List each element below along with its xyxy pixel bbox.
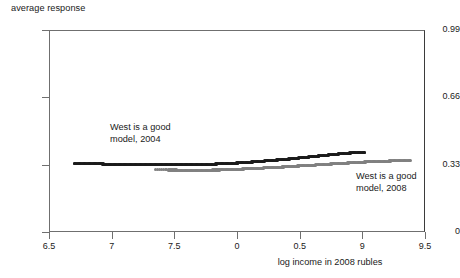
x-axis-tick-label: 6.5 xyxy=(29,241,69,251)
y-axis-tick-mark xyxy=(42,165,49,166)
x-axis-tick-mark xyxy=(174,232,175,239)
data-series-2008 xyxy=(49,30,425,232)
series-annotation-2008: West is a good model, 2008 xyxy=(356,171,417,194)
annotation-2004-line1: West is a good xyxy=(110,122,171,134)
x-axis-tick-mark xyxy=(362,232,363,239)
x-axis-tick-label: 7.5 xyxy=(154,241,194,251)
chart-figure: average response 00.330.660.996.577.500.… xyxy=(0,0,460,278)
data-point xyxy=(408,159,411,162)
y-axis-tick-mark xyxy=(42,30,49,31)
series-annotation-2004: West is a good model, 2004 xyxy=(110,122,171,145)
annotation-2008-line2: model, 2008 xyxy=(356,183,417,195)
x-axis-tick-mark xyxy=(300,232,301,239)
x-axis-tick-label: 0.5 xyxy=(280,241,320,251)
y-axis-title: average response xyxy=(11,3,85,13)
y-axis-tick-label: 0.99 xyxy=(424,24,460,34)
plot-data-area xyxy=(49,30,425,232)
x-axis-tick-label: 9.5 xyxy=(405,241,445,251)
annotation-2008-line1: West is a good xyxy=(356,171,417,183)
x-axis-tick-mark xyxy=(112,232,113,239)
annotation-2004-line2: model, 2004 xyxy=(110,134,171,146)
x-axis-tick-mark xyxy=(237,232,238,239)
x-axis-tick-label: 9 xyxy=(342,241,382,251)
x-axis-title: log income in 2008 rubles xyxy=(278,257,383,267)
y-axis-tick-mark xyxy=(42,97,49,98)
x-axis-tick-label: 7 xyxy=(92,241,132,251)
x-axis-tick-mark xyxy=(425,232,426,239)
y-axis-tick-label: 0.33 xyxy=(424,159,460,169)
x-axis-tick-mark xyxy=(49,232,50,239)
y-axis-tick-label: 0 xyxy=(424,226,460,236)
x-axis-tick-label: 0 xyxy=(217,241,257,251)
y-axis-tick-mark xyxy=(42,232,49,233)
y-axis-tick-label: 0.66 xyxy=(424,91,460,101)
